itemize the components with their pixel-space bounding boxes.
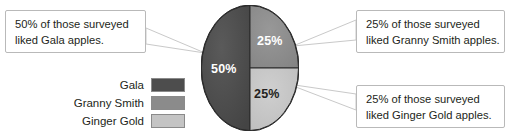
legend-item-granny-smith: Granny Smith <box>48 94 185 111</box>
connector-granny <box>293 20 356 46</box>
callout-gala: 50% of those surveyed liked Gala apples. <box>5 10 146 53</box>
callout-gala-line1: 50% of those surveyed <box>15 16 137 32</box>
callout-ginger-line1: 25% of those surveyed <box>366 91 496 107</box>
pie-chart: 50% 25% 25% <box>201 5 299 131</box>
legend-swatch-ginger-gold <box>151 114 185 128</box>
pie-label-ginger: 25% <box>254 87 280 101</box>
legend-item-gala: Gala <box>48 76 185 93</box>
callout-granny-line1: 25% of those surveyed <box>366 16 496 32</box>
legend-item-ginger-gold: Ginger Gold <box>48 112 185 129</box>
callout-granny-line2: liked Granny Smith apples. <box>366 32 496 48</box>
legend: Gala Granny Smith Ginger Gold <box>48 76 185 130</box>
callout-ginger-gold: 25% of those surveyed liked Ginger Gold … <box>356 85 505 128</box>
pie-label-granny: 25% <box>257 34 283 48</box>
legend-label-gala: Gala <box>120 79 144 91</box>
callout-gala-line2: liked Gala apples. <box>15 32 137 48</box>
legend-label-ginger-gold: Ginger Gold <box>82 115 144 127</box>
pie-chart-figure: 50% 25% 25% 50% of those surveyed liked … <box>0 0 508 136</box>
legend-swatch-gala <box>151 78 185 92</box>
legend-swatch-granny-smith <box>151 96 185 110</box>
callout-ginger-line2: liked Ginger Gold apples. <box>366 107 496 123</box>
connector-gala <box>146 28 205 53</box>
callout-granny-smith: 25% of those surveyed liked Granny Smith… <box>356 10 505 53</box>
legend-label-granny-smith: Granny Smith <box>74 97 144 109</box>
pie-label-gala: 50% <box>211 62 237 76</box>
